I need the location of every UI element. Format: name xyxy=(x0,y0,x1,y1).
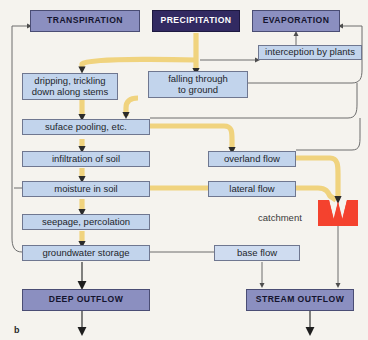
node-interception-label: interception by plants xyxy=(265,47,355,58)
hydrological-cycle-diagram: TRANSPIRATION PRECIPITATION EVAPORATION … xyxy=(0,0,368,340)
node-overland-label: overland flow xyxy=(224,154,280,165)
node-overland-flow[interactable]: overland flow xyxy=(208,151,296,167)
node-precipitation-label: PRECIPITATION xyxy=(161,16,232,26)
node-deep-outflow-label: DEEP OUTFLOW xyxy=(49,295,123,305)
figure-label: b xyxy=(14,325,20,335)
node-lateral-flow[interactable]: lateral flow xyxy=(208,181,296,197)
node-precipitation[interactable]: PRECIPITATION xyxy=(152,10,240,32)
node-interception-by-plants[interactable]: interception by plants xyxy=(258,45,362,60)
node-transpiration[interactable]: TRANSPIRATION xyxy=(30,10,140,32)
node-groundwater-label: groundwater storage xyxy=(42,248,129,259)
node-falling-label-line2: to ground xyxy=(178,85,218,96)
node-surface-pooling[interactable]: suface pooling, etc. xyxy=(22,119,150,135)
node-evaporation-label: EVAPORATION xyxy=(263,16,330,26)
node-lateral-label: lateral flow xyxy=(229,184,274,195)
node-moisture-in-soil[interactable]: moisture in soil xyxy=(22,181,150,197)
node-falling-label-line1: falling through xyxy=(168,74,228,85)
node-falling-through-to-ground[interactable]: falling through to ground xyxy=(148,71,248,98)
node-infiltration-label: infiltration of soil xyxy=(52,154,120,165)
node-baseflow-label: base flow xyxy=(237,248,277,259)
node-evaporation[interactable]: EVAPORATION xyxy=(252,10,340,32)
node-seepage-percolation[interactable]: seepage, percolation xyxy=(22,214,150,230)
node-pooling-label: suface pooling, etc. xyxy=(45,122,127,133)
node-dripping-label-line2: down along stems xyxy=(32,87,109,98)
catchment-caption: catchment xyxy=(258,212,302,223)
node-infiltration-of-soil[interactable]: infiltration of soil xyxy=(22,151,150,167)
node-groundwater-storage[interactable]: groundwater storage xyxy=(22,245,150,261)
node-seepage-label: seepage, percolation xyxy=(42,217,130,228)
node-dripping-label-line1: dripping, trickling xyxy=(34,76,105,87)
node-dripping-trickling[interactable]: dripping, trickling down along stems xyxy=(22,73,118,100)
catchment-symbol xyxy=(318,198,362,228)
node-moisture-label: moisture in soil xyxy=(54,184,117,195)
node-stream-outflow-label: STREAM OUTFLOW xyxy=(256,295,344,305)
node-deep-outflow[interactable]: DEEP OUTFLOW xyxy=(22,289,150,311)
node-transpiration-label: TRANSPIRATION xyxy=(47,16,123,26)
node-stream-outflow[interactable]: STREAM OUTFLOW xyxy=(246,289,354,311)
node-base-flow[interactable]: base flow xyxy=(214,245,300,261)
